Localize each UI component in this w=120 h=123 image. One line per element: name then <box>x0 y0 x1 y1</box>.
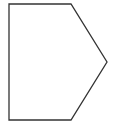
diagram-canvas <box>0 0 120 123</box>
pentagon-shape <box>9 4 107 120</box>
